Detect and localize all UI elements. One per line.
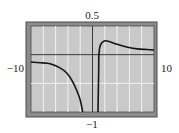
xmax-label: 10 — [161, 62, 173, 74]
ymin-label: −1 — [86, 118, 98, 130]
calculator-graph: 0.5 −1 −10 10 — [0, 0, 179, 133]
xmin-label: −10 — [7, 62, 25, 74]
ymax-label: 0.5 — [85, 9, 99, 21]
